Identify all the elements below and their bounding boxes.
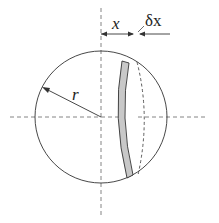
slice-back-edge — [137, 62, 144, 175]
dx-arrowhead-icon — [139, 32, 145, 37]
dx-leader — [138, 26, 144, 32]
x-arrowhead-right-icon — [128, 32, 134, 37]
radius-label: r — [72, 86, 79, 103]
radius-arrowhead-icon — [42, 87, 50, 93]
thickness-label: δx — [145, 12, 162, 29]
slab — [118, 61, 133, 178]
x-arrowhead-left-icon — [101, 32, 107, 37]
sphere-slice-diagram — [0, 0, 219, 223]
distance-label: x — [112, 15, 120, 32]
